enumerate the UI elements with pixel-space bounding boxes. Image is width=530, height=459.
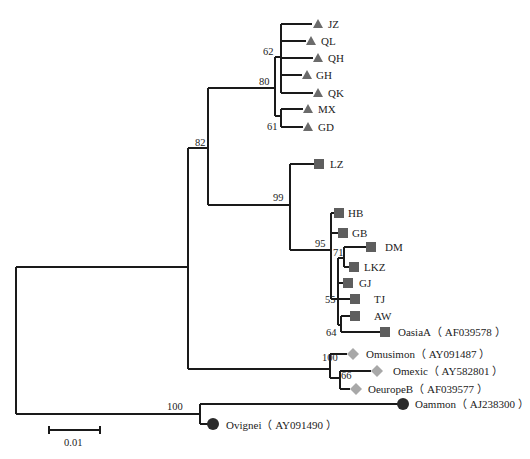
square-marker-LKZ	[349, 262, 359, 272]
triangle-marker-QL	[306, 36, 316, 45]
triangle-marker-QK	[313, 88, 323, 97]
scale-bar	[49, 426, 100, 434]
bootstrap-label: 100	[322, 352, 338, 363]
diamond-marker-Omexic	[371, 365, 383, 377]
taxon-label: Omusimon（ AY091487 ）	[366, 348, 490, 360]
triangle-marker-QH	[313, 53, 323, 62]
bootstrap-label: 55	[325, 294, 336, 305]
square-marker-OasiaA	[380, 327, 390, 337]
taxon-label: Omexic（ AY582801 ）	[393, 365, 503, 377]
taxon-label: Ovignei（ AY091490 ）	[226, 419, 337, 431]
taxon-label: QL	[321, 35, 336, 47]
square-marker-GJ	[343, 278, 353, 288]
taxon-label: OasiaA（ AF039578 ）	[398, 326, 506, 338]
taxon-label: LKZ	[364, 261, 386, 273]
square-marker-DM	[366, 242, 376, 252]
square-marker-GB	[338, 228, 348, 238]
bootstrap-label: 99	[273, 192, 284, 203]
triangle-marker-MX	[303, 104, 313, 113]
circle-marker-Ovignei	[207, 418, 219, 430]
scale-bar-label: 0.01	[64, 437, 82, 448]
bootstrap-label: 95	[315, 238, 326, 249]
taxon-label: QH	[328, 52, 344, 64]
circle-marker-Oammon	[397, 398, 409, 410]
taxon-label: JZ	[328, 18, 339, 30]
taxon-label: GD	[318, 121, 334, 133]
diamond-marker-Omusimon	[347, 348, 359, 360]
taxon-label: GJ	[359, 277, 372, 289]
taxon-label: Oammon（ AJ238300 ）	[415, 398, 529, 410]
bootstrap-values: 62 80 61 82 99 95 71 55 64 100 66 100	[167, 46, 352, 412]
taxon-label: TJ	[374, 293, 386, 305]
diamond-marker-OeuropeB	[350, 383, 362, 395]
bootstrap-label: 80	[259, 76, 270, 87]
triangle-marker-JZ	[313, 19, 323, 28]
taxon-label: MX	[318, 103, 336, 115]
taxon-label: OeuropeB（ AF039577 ）	[368, 383, 488, 395]
taxon-label: AW	[374, 310, 392, 322]
bootstrap-label: 61	[267, 121, 278, 132]
bootstrap-label: 64	[326, 327, 337, 338]
phylogenetic-tree: JZ QL QH GH QK MX GD LZ HB GB DM LKZ GJ …	[0, 0, 530, 459]
square-marker-HB	[334, 208, 344, 218]
square-marker-LZ	[314, 159, 324, 169]
taxon-label: GH	[316, 69, 332, 81]
bootstrap-label: 71	[333, 247, 344, 258]
taxon-label: QK	[328, 87, 344, 99]
bootstrap-label: 100	[167, 401, 183, 412]
taxon-label: DM	[385, 241, 403, 253]
bootstrap-label: 82	[195, 137, 206, 148]
triangle-marker-GH	[302, 70, 312, 79]
taxon-label: GB	[352, 227, 367, 239]
triangle-marker-GD	[303, 122, 313, 131]
square-marker-AW	[350, 311, 360, 321]
bootstrap-label: 66	[341, 370, 352, 381]
bootstrap-label: 62	[263, 46, 274, 57]
taxon-label: LZ	[330, 158, 344, 170]
square-marker-TJ	[350, 294, 360, 304]
taxon-label: HB	[348, 207, 363, 219]
